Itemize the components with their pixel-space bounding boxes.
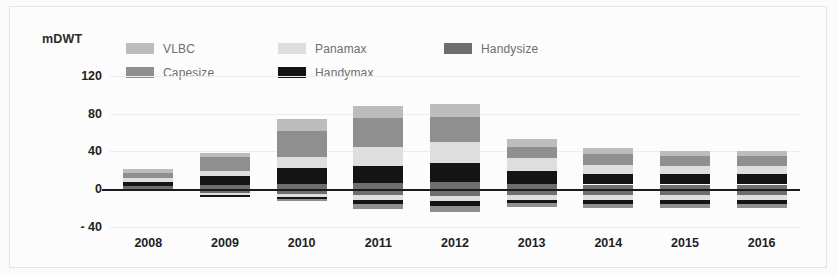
bar-group-2012[interactable] [430, 57, 480, 227]
y-axis-unit-label: mDWT [42, 32, 82, 46]
bar-segment-handysize [353, 183, 403, 190]
bar-segment-handymax [277, 168, 327, 183]
y-tick-label: - 40 [42, 220, 102, 234]
bar-segment-handymax [660, 174, 710, 184]
bar-group-2008[interactable] [123, 57, 173, 227]
x-tick-label-2014: 2014 [594, 236, 622, 250]
bar-segment-vlbc [430, 104, 480, 117]
bar-group-2009[interactable] [200, 57, 250, 227]
bar-segment-panamax [430, 142, 480, 163]
legend-swatch-icon [278, 43, 306, 54]
bar-group-2014[interactable] [583, 57, 633, 227]
x-tick-label-2015: 2015 [671, 236, 699, 250]
bar-segment-capesize [660, 156, 710, 165]
legend-label: Panamax [315, 42, 367, 56]
bar-segment-handymax [430, 163, 480, 182]
legend-swatch-icon [444, 43, 472, 54]
x-tick-label-2016: 2016 [748, 236, 776, 250]
bar-segment-capesize [583, 154, 633, 164]
bar-segment-handymax [507, 171, 557, 183]
bar-segment-panamax [123, 178, 173, 182]
bar-segment-capesize [200, 157, 250, 171]
bar-segment-neg-capesize [277, 199, 327, 201]
bar-segment-vlbc [507, 139, 557, 147]
bar-segment-handymax [353, 166, 403, 183]
bar-segment-vlbc [660, 151, 710, 157]
y-tick-label: 40 [42, 144, 102, 158]
bar-segment-handymax [583, 174, 633, 184]
x-tick-label-2011: 2011 [365, 236, 392, 250]
legend-swatch-icon [126, 43, 154, 54]
bar-segment-panamax [737, 166, 787, 175]
bar-segment-handymax [200, 176, 250, 185]
bar-segment-vlbc [583, 148, 633, 155]
bar-segment-neg-capesize [583, 204, 633, 208]
y-tick-label: 80 [42, 107, 102, 121]
bar-segment-neg-capesize [660, 204, 710, 208]
y-tick-label: 0 [42, 182, 102, 196]
bar-group-2011[interactable] [353, 57, 403, 227]
gridline [110, 227, 800, 228]
bar-segment-neg-handymax [200, 195, 250, 197]
bar-segment-handymax [123, 182, 173, 187]
bar-segment-panamax [277, 157, 327, 168]
bar-segment-neg-capesize [430, 206, 480, 212]
x-tick-label-2008: 2008 [134, 236, 162, 250]
bar-segment-vlbc [737, 151, 787, 157]
bar-segment-capesize [277, 131, 327, 157]
bar-group-2013[interactable] [507, 57, 557, 227]
bar-segment-panamax [353, 147, 403, 166]
y-tick-label: 120 [42, 69, 102, 83]
x-tick-label-2013: 2013 [518, 236, 546, 250]
plot-area [110, 57, 800, 227]
bar-segment-capesize [430, 117, 480, 142]
bar-segment-capesize [507, 147, 557, 158]
bar-group-2015[interactable] [660, 57, 710, 227]
legend-label: Handysize [481, 42, 538, 56]
bar-segment-neg-capesize [737, 204, 787, 208]
bar-segment-capesize [353, 118, 403, 146]
legend-item-panamax[interactable]: Panamax [278, 41, 367, 56]
bar-group-2010[interactable] [277, 57, 327, 227]
legend-label: VLBC [163, 42, 195, 56]
x-tick-label-2009: 2009 [211, 236, 239, 250]
bar-segment-vlbc [200, 153, 250, 157]
x-tick-label-2010: 2010 [288, 236, 316, 250]
bar-segment-neg-capesize [507, 203, 557, 207]
bar-segment-panamax [200, 171, 250, 176]
bar-segment-vlbc [353, 106, 403, 118]
bar-segment-panamax [583, 165, 633, 174]
bar-segment-panamax [507, 158, 557, 171]
bar-segment-vlbc [123, 169, 173, 173]
bar-group-2016[interactable] [737, 57, 787, 227]
x-tick-label-2012: 2012 [441, 236, 469, 250]
bar-segment-vlbc [277, 119, 327, 130]
bar-segment-panamax [660, 166, 710, 175]
zero-baseline [102, 189, 800, 191]
legend-item-handysize[interactable]: Handysize [444, 41, 538, 56]
chart-figure: mDWT VLBCPanamaxHandysizeCapesizeHandyma… [0, 0, 838, 276]
bar-segment-handymax [737, 174, 787, 184]
bar-segment-handysize [430, 182, 480, 190]
bar-segment-capesize [123, 173, 173, 178]
y-axis-ticks: 12080400- 40 [36, 57, 102, 227]
legend-item-vlbc[interactable]: VLBC [126, 41, 195, 56]
bar-segment-neg-capesize [353, 204, 403, 209]
bar-segment-capesize [737, 156, 787, 165]
